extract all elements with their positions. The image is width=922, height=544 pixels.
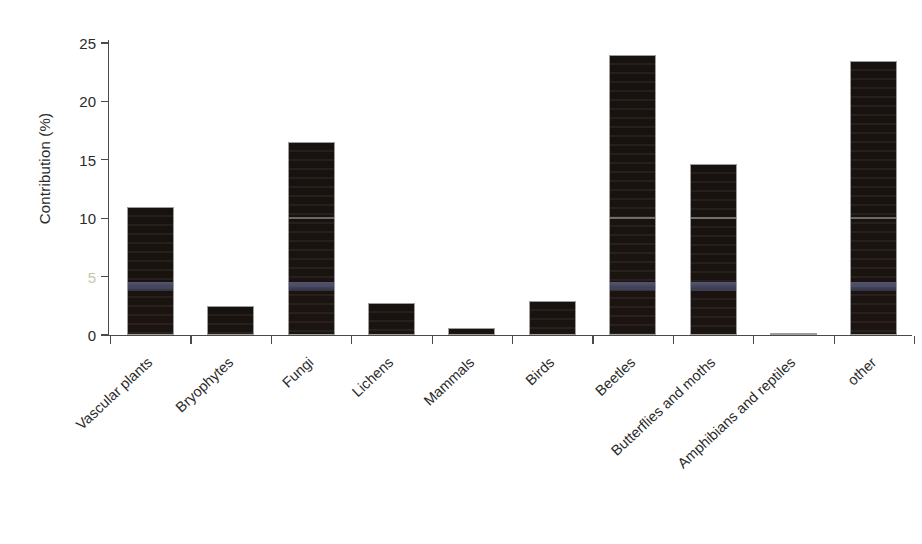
- y-tick-label-0: 0: [56, 327, 96, 344]
- y-tick-label-10: 10: [56, 210, 96, 227]
- bar-fungi[interactable]: [288, 142, 335, 335]
- y-tick-mark: [101, 334, 109, 335]
- x-tick-mark: [834, 336, 835, 344]
- x-tick-mark: [271, 336, 272, 344]
- bar-lichens[interactable]: [368, 303, 415, 335]
- y-tick-label-25: 25: [56, 35, 96, 52]
- bar-scan-line: [691, 217, 736, 219]
- y-tick-mark: [101, 101, 109, 102]
- x-tick-mark: [592, 336, 593, 344]
- bar-scan-line: [851, 217, 896, 219]
- bar-birds[interactable]: [529, 301, 576, 335]
- bar-sheen-band: [610, 282, 655, 291]
- x-axis-line: [108, 335, 912, 336]
- x-tick-mark: [753, 336, 754, 344]
- bar-sheen-band: [851, 282, 896, 291]
- x-tick-mark: [512, 336, 513, 344]
- bar-beetles[interactable]: [609, 55, 656, 335]
- bar-sheen-band: [128, 282, 173, 291]
- y-axis-line: [108, 40, 109, 336]
- bar-sheen-band: [691, 282, 736, 291]
- bar-scan-line: [610, 217, 655, 219]
- bar-chart-figure: Contribution (%) 0510152025 Vascular pla…: [0, 0, 922, 544]
- x-tick-mark: [351, 336, 352, 344]
- bar-other[interactable]: [850, 61, 897, 335]
- x-tick-mark: [432, 336, 433, 344]
- bar-scan-line: [289, 217, 334, 219]
- y-tick-label-15: 15: [56, 151, 96, 168]
- y-tick-label-5: 5: [56, 268, 96, 285]
- bar-vascular-plants[interactable]: [127, 207, 174, 335]
- y-tick-mark: [101, 159, 109, 160]
- x-tick-mark: [673, 336, 674, 344]
- y-tick-mark: [101, 218, 109, 219]
- bar-amphibians-and-reptiles[interactable]: [770, 333, 817, 335]
- x-tick-mark: [190, 336, 191, 344]
- x-tick-mark: [110, 336, 111, 344]
- bar-bryophytes[interactable]: [207, 306, 254, 335]
- bar-butterflies-and-moths[interactable]: [690, 164, 737, 335]
- y-tick-mark: [101, 276, 109, 277]
- bar-mammals[interactable]: [448, 328, 495, 335]
- x-tick-mark: [914, 336, 915, 344]
- bar-sheen-band: [289, 282, 334, 291]
- y-axis-title: Contribution (%): [36, 39, 53, 299]
- y-tick-mark: [101, 42, 109, 43]
- y-tick-label-20: 20: [56, 93, 96, 110]
